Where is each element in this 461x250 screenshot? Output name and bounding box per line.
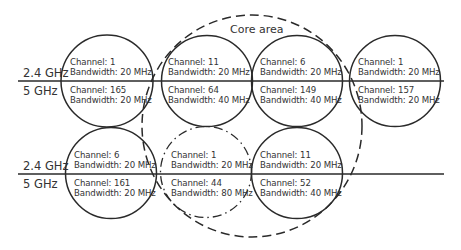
ap-r2-3-2g: Channel: 11 Bandwidth: 20 MHz (260, 150, 342, 170)
band-label-5g-row-2: 5 GHz (23, 178, 58, 190)
channel-text: Channel: 64 (168, 85, 250, 95)
channel-text: Channel: 6 (74, 150, 156, 160)
bandwidth-text: Bandwidth: 40 MHz (260, 95, 342, 105)
ap-r2-1-5g: Channel: 161 Bandwidth: 20 MHz (74, 178, 156, 198)
ap-r1-1-5g: Channel: 165 Bandwidth: 20 MHz (70, 85, 152, 105)
channel-text: Channel: 11 (168, 57, 250, 67)
ap-r1-2-5g: Channel: 64 Bandwidth: 40 MHz (168, 85, 250, 105)
band-label-2g-row-1: 2.4 GHz (23, 67, 69, 79)
ap-r1-4-5g: Channel: 157 Bandwidth: 20 MHz (358, 85, 440, 105)
ap-r2-2-5g: Channel: 44 Bandwidth: 80 MHz (171, 178, 253, 198)
bandwidth-text: Bandwidth: 20 MHz (168, 67, 250, 77)
bandwidth-text: Bandwidth: 20 MHz (358, 67, 440, 77)
bandwidth-text: Bandwidth: 20 MHz (260, 67, 342, 77)
channel-text: Channel: 165 (70, 85, 152, 95)
bandwidth-text: Bandwidth: 20 MHz (74, 160, 156, 170)
ap-r1-2-2g: Channel: 11 Bandwidth: 20 MHz (168, 57, 250, 77)
bandwidth-text: Bandwidth: 20 MHz (70, 67, 152, 77)
ap-circle-r2-1 (66, 128, 157, 219)
bandwidth-text: Bandwidth: 20 MHz (171, 160, 253, 170)
ap-r2-1-2g: Channel: 6 Bandwidth: 20 MHz (74, 150, 156, 170)
ap-r1-3-5g: Channel: 149 Bandwidth: 40 MHz (260, 85, 342, 105)
bandwidth-text: Bandwidth: 40 MHz (260, 188, 342, 198)
channel-text: Channel: 6 (260, 57, 342, 67)
band-label-5g-row-1: 5 GHz (23, 85, 58, 97)
bandwidth-text: Bandwidth: 40 MHz (168, 95, 250, 105)
channel-text: Channel: 1 (358, 57, 440, 67)
core-area-label: Core area (230, 24, 284, 36)
channel-text: Channel: 11 (260, 150, 342, 160)
wlan-channel-diagram (0, 0, 461, 250)
ap-r2-3-5g: Channel: 52 Bandwidth: 40 MHz (260, 178, 342, 198)
bandwidth-text: Bandwidth: 20 MHz (358, 95, 440, 105)
channel-text: Channel: 161 (74, 178, 156, 188)
channel-text: Channel: 149 (260, 85, 342, 95)
channel-text: Channel: 1 (171, 150, 253, 160)
ap-r1-3-2g: Channel: 6 Bandwidth: 20 MHz (260, 57, 342, 77)
bandwidth-text: Bandwidth: 20 MHz (260, 160, 342, 170)
channel-text: Channel: 44 (171, 178, 253, 188)
band-label-2g-row-2: 2.4 GHz (23, 160, 69, 172)
ap-r1-1-2g: Channel: 1 Bandwidth: 20 MHz (70, 57, 152, 77)
ap-r2-2-2g: Channel: 1 Bandwidth: 20 MHz (171, 150, 253, 170)
bandwidth-text: Bandwidth: 80 MHz (171, 188, 253, 198)
channel-text: Channel: 1 (70, 57, 152, 67)
channel-text: Channel: 52 (260, 178, 342, 188)
ap-r1-4-2g: Channel: 1 Bandwidth: 20 MHz (358, 57, 440, 77)
channel-text: Channel: 157 (358, 85, 440, 95)
bandwidth-text: Bandwidth: 20 MHz (70, 95, 152, 105)
bandwidth-text: Bandwidth: 20 MHz (74, 188, 156, 198)
